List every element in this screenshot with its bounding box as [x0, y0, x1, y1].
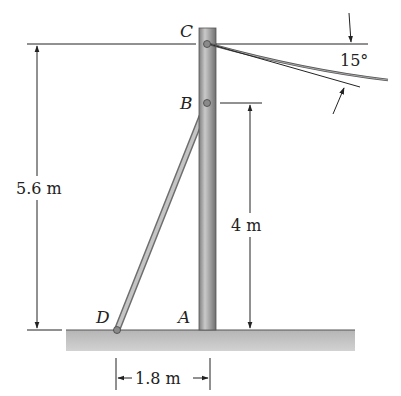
label-b: B: [179, 93, 193, 113]
label-d: D: [95, 307, 110, 327]
pin-c: [204, 41, 211, 48]
ground: [66, 330, 355, 351]
label-a: A: [176, 307, 190, 327]
cable-angle-reference: [209, 44, 360, 87]
pole-diagram: C B A D 5.6 m 4 m 1.8 m 15°: [0, 0, 401, 396]
pin-d: [114, 327, 121, 334]
label-cable-angle: 15°: [340, 51, 368, 70]
label-base-distance: 1.8 m: [135, 369, 181, 388]
label-total-height: 5.6 m: [16, 179, 62, 198]
pole: [199, 28, 216, 330]
label-b-height: 4 m: [231, 216, 261, 235]
angle-arrow-top: [349, 13, 351, 42]
pin-b: [204, 100, 211, 107]
label-c: C: [180, 21, 193, 41]
strut-bd: [117, 103, 207, 330]
angle-arrow-bottom: [333, 88, 344, 114]
